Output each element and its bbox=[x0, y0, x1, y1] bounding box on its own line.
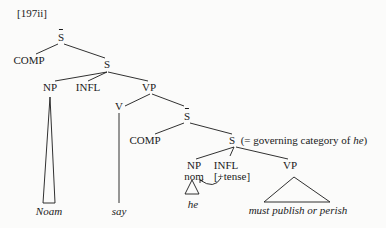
node-s-1: S bbox=[104, 58, 110, 70]
node-comp-1: COMP bbox=[13, 54, 44, 66]
nom-feature: nom bbox=[184, 170, 204, 182]
node-s-2: S (= governing category of he) bbox=[229, 134, 367, 146]
node-sbar-2: S bbox=[184, 110, 190, 122]
node-comp-2: COMP bbox=[129, 134, 160, 146]
node-v: V bbox=[115, 100, 123, 112]
node-np-1: NP bbox=[43, 81, 57, 93]
leaf-vp-phrase: must publish or perish bbox=[249, 204, 348, 216]
node-vp-1: VP bbox=[142, 81, 156, 93]
example-number: [197ii] bbox=[17, 7, 47, 19]
leaf-say: say bbox=[112, 205, 127, 217]
leaf-he: he bbox=[188, 198, 198, 210]
tense-feature: [+tense] bbox=[214, 170, 250, 182]
node-sbar-root: S bbox=[58, 31, 64, 43]
governing-category-annotation: (= governing category of bbox=[241, 134, 354, 146]
node-vp-2: VP bbox=[283, 159, 297, 171]
leaf-noam: Noam bbox=[36, 205, 62, 217]
node-infl-1: INFL bbox=[76, 81, 100, 93]
